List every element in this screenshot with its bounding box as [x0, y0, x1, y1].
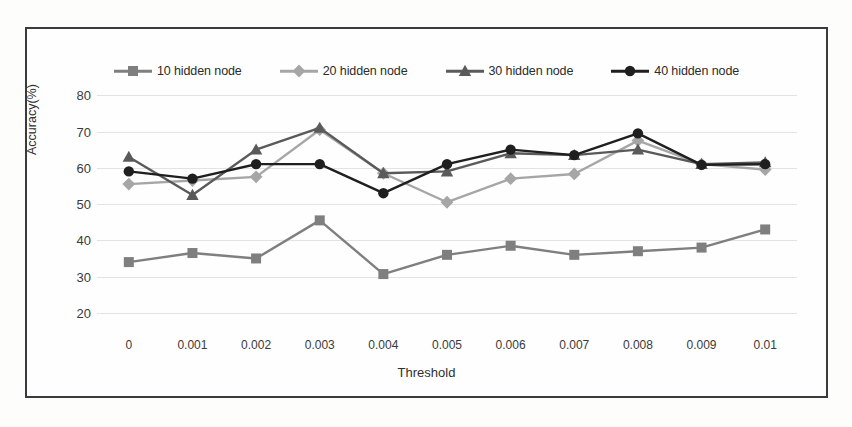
- data-point-marker: [633, 128, 643, 138]
- data-point-marker: [292, 65, 305, 78]
- legend-label: 30 hidden node: [489, 64, 574, 78]
- data-point-marker: [696, 160, 706, 170]
- legend-label: 20 hidden node: [323, 64, 408, 78]
- series-4: [97, 88, 797, 331]
- x-axis-tick-label: 0: [125, 338, 132, 352]
- x-axis-label: Threshold: [25, 365, 828, 380]
- y-axis-tick-label: 80: [77, 88, 91, 103]
- data-point-marker: [187, 173, 197, 183]
- data-point-marker: [128, 66, 138, 76]
- data-point-marker: [251, 159, 261, 169]
- data-point-marker: [625, 66, 635, 76]
- y-axis: 20304050607080: [55, 83, 95, 336]
- legend-marker-circle-icon: [611, 65, 649, 77]
- y-axis-tick-label: 60: [77, 160, 91, 175]
- legend-marker-triangle-icon: [446, 65, 484, 77]
- data-point-marker: [315, 159, 325, 169]
- data-point-marker: [378, 188, 388, 198]
- legend-marker-diamond-icon: [280, 65, 318, 77]
- x-axis-tick-label: 0.008: [623, 338, 653, 352]
- y-axis-tick-label: 20: [77, 305, 91, 320]
- legend-item-1[interactable]: 10 hidden node: [114, 64, 242, 78]
- x-axis-tick-label: 0.01: [753, 338, 776, 352]
- x-axis-tick-label: 0.004: [368, 338, 398, 352]
- x-axis-tick-label: 0.009: [687, 338, 717, 352]
- x-axis-tick-label: 0.002: [241, 338, 271, 352]
- x-axis-tick-label: 0.007: [559, 338, 589, 352]
- legend-item-4[interactable]: 40 hidden node: [611, 64, 739, 78]
- data-point-marker: [458, 65, 470, 76]
- data-point-marker: [124, 166, 134, 176]
- data-point-marker: [505, 144, 515, 154]
- legend-item-3[interactable]: 30 hidden node: [446, 64, 574, 78]
- y-axis-tick-label: 70: [77, 124, 91, 139]
- data-point-marker: [760, 159, 770, 169]
- y-axis-tick-label: 30: [77, 269, 91, 284]
- data-point-marker: [569, 150, 579, 160]
- x-axis-tick-label: 0.006: [496, 338, 526, 352]
- plot-area: [97, 88, 797, 331]
- x-axis-tick-label: 0.003: [305, 338, 335, 352]
- x-axis: 00.0010.0020.0030.0040.0050.0060.0070.00…: [97, 338, 797, 358]
- legend-item-2[interactable]: 20 hidden node: [280, 64, 408, 78]
- y-axis-tick-label: 50: [77, 197, 91, 212]
- legend-marker-square-icon: [114, 65, 152, 77]
- x-axis-tick-label: 0.001: [177, 338, 207, 352]
- figure-root: 10 hidden node20 hidden node30 hidden no…: [0, 0, 852, 427]
- chart-legend: 10 hidden node20 hidden node30 hidden no…: [25, 58, 828, 84]
- data-point-marker: [442, 159, 452, 169]
- y-axis-label: Accuracy(%): [25, 84, 39, 155]
- x-axis-tick-label: 0.005: [432, 338, 462, 352]
- y-axis-tick-label: 40: [77, 233, 91, 248]
- legend-label: 40 hidden node: [654, 64, 739, 78]
- legend-label: 10 hidden node: [157, 64, 242, 78]
